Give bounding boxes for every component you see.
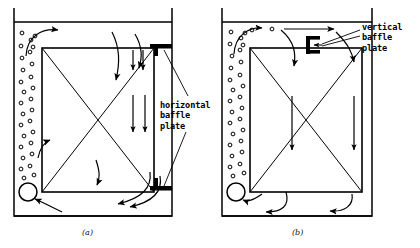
- figure-container: horizontal baffle plate vertical baffle …: [0, 0, 420, 248]
- horizontal-baffle-plate-label: horizontal baffle plate: [160, 100, 210, 131]
- circulation-flow-arrows-b: [234, 28, 354, 212]
- sparger-circle-a: [19, 183, 37, 201]
- panel-caption-a: (a): [82, 228, 93, 237]
- sparger-circle-b: [227, 183, 245, 201]
- panel-b: [222, 8, 372, 216]
- diagonal-cross-lines-b: [250, 48, 362, 192]
- diagonal-cross-lines-a: [42, 48, 154, 192]
- panel-caption-b: (b): [292, 228, 303, 237]
- downflow-arrows-a: [133, 50, 145, 132]
- vertical-baffle-plate-label: vertical baffle plate: [362, 22, 402, 53]
- bubble-riser-column-a: [19, 31, 37, 180]
- circulation-flow-arrows-a: [26, 30, 160, 212]
